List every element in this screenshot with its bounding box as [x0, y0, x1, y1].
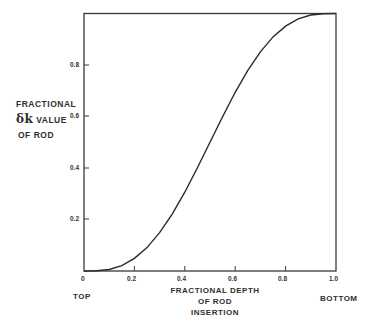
x-tick-label: 0.6 [228, 275, 237, 282]
top-end-label: TOP [73, 292, 91, 301]
bottom-end-label: BOTTOM [320, 294, 358, 303]
delta-k-symbol: δk [16, 112, 33, 126]
y-axis-label-line2: δk VALUE [16, 112, 76, 128]
y-tick-label: 0.8 [70, 61, 79, 68]
y-axis-ticks [84, 65, 89, 219]
y-tick-label: 0.2 [70, 215, 79, 222]
x-tick-label: 0.8 [278, 275, 287, 282]
x-axis-label-line1: FRACTIONAL DEPTH [160, 285, 270, 296]
y-axis-label-line3: OF ROD [16, 128, 76, 143]
x-tick-label: 0.4 [177, 275, 186, 282]
x-axis-label-line2: OF ROD [160, 296, 270, 307]
x-tick-label: 1.0 [329, 275, 338, 282]
x-axis-ticks [134, 266, 285, 271]
y-tick-label: 0.4 [70, 164, 79, 171]
y-axis-label-line1: FRACTIONAL [16, 97, 76, 112]
y-axis-label: FRACTIONAL δk VALUE OF ROD [16, 97, 76, 143]
data-curve [84, 14, 336, 272]
x-axis-label: FRACTIONAL DEPTH OF ROD INSERTION [160, 285, 270, 318]
x-tick-label: 0 [81, 275, 85, 282]
chart-canvas [0, 0, 375, 329]
x-tick-label: 0.2 [127, 275, 136, 282]
y-axis-label-value: VALUE [36, 115, 67, 125]
x-axis-label-line3: INSERTION [160, 307, 270, 318]
